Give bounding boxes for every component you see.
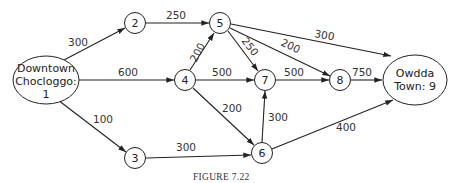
edge-4-6 (193, 88, 254, 145)
edge-label-2-5: 250 (166, 9, 186, 21)
node-9-label-line-2: Town: 9 (393, 80, 436, 93)
node-5-label: 5 (217, 17, 224, 30)
edge-label-4-5: 200 (187, 41, 207, 64)
edge-label-5-9: 300 (314, 27, 336, 42)
node-6: 6 (252, 143, 273, 164)
edge-label-5-8: 200 (279, 36, 302, 55)
edge-label-3-6: 300 (176, 141, 196, 153)
edge-label-7-8: 500 (284, 66, 304, 78)
edge-label-1-4: 600 (118, 66, 138, 78)
node-2: 2 (125, 13, 146, 34)
node-8: 8 (330, 70, 351, 91)
node-4: 4 (175, 70, 196, 91)
node-1-label-line-3: 1 (43, 88, 50, 101)
node-7-label: 7 (262, 74, 269, 87)
edge-label-4-6: 200 (222, 102, 242, 114)
node-2-label: 2 (132, 17, 139, 30)
node-9-owdda-town: Owdda Town: 9 (383, 55, 447, 105)
node-3-label: 3 (132, 152, 139, 165)
node-5: 5 (210, 13, 231, 34)
edge-6-7 (262, 91, 265, 142)
edge-label-1-3: 100 (93, 113, 113, 125)
node-3: 3 (125, 148, 146, 169)
figure-caption: FIGURE 7.22 (193, 172, 250, 182)
edge-label-1-2: 300 (68, 36, 88, 48)
node-4-label: 4 (182, 74, 189, 87)
node-9-label-line-1: Owdda (396, 67, 434, 80)
edge-label-8-9: 750 (352, 66, 372, 78)
network-diagram: 300 600 100 250 200 500 200 250 200 300 … (0, 0, 455, 183)
node-7: 7 (255, 70, 276, 91)
node-1-label-line-1: Downtown (17, 62, 75, 75)
node-6-label: 6 (259, 147, 266, 160)
node-8-label: 8 (337, 74, 344, 87)
edge-label-6-7: 300 (268, 111, 288, 123)
edge-label-6-9: 400 (336, 121, 356, 133)
edge-3-6 (146, 155, 251, 158)
edge-label-4-7: 500 (212, 66, 232, 78)
node-1-downtown-chocloggo: Downtown Chocloggo: 1 (13, 56, 79, 104)
edge-6-9 (272, 100, 393, 149)
node-1-label-line-2: Chocloggo: (15, 75, 77, 88)
edge-1-3 (58, 100, 126, 152)
